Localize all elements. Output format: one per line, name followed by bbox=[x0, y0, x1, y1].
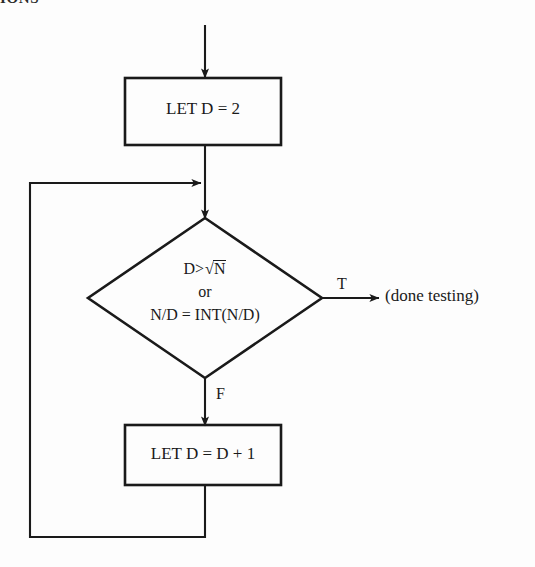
square-root-icon: √N bbox=[204, 260, 226, 277]
true-branch-label: T bbox=[337, 276, 347, 292]
flowchart-page: IONS LET D = 2 D>√N or N/D = INT(N/D) T … bbox=[0, 0, 535, 567]
condition-radicand: N bbox=[213, 260, 227, 277]
condition-line-1: D>√N bbox=[105, 260, 305, 277]
done-testing-label: (done testing) bbox=[385, 287, 479, 304]
condition-line-2: or bbox=[105, 284, 305, 300]
false-branch-label: F bbox=[216, 386, 225, 402]
condition-line-3: N/D = INT(N/D) bbox=[105, 307, 305, 323]
process-box-increment-label: LET D = D + 1 bbox=[125, 445, 281, 462]
condition-line-1-prefix: D> bbox=[184, 260, 205, 277]
process-box-init-label: LET D = 2 bbox=[125, 100, 281, 117]
